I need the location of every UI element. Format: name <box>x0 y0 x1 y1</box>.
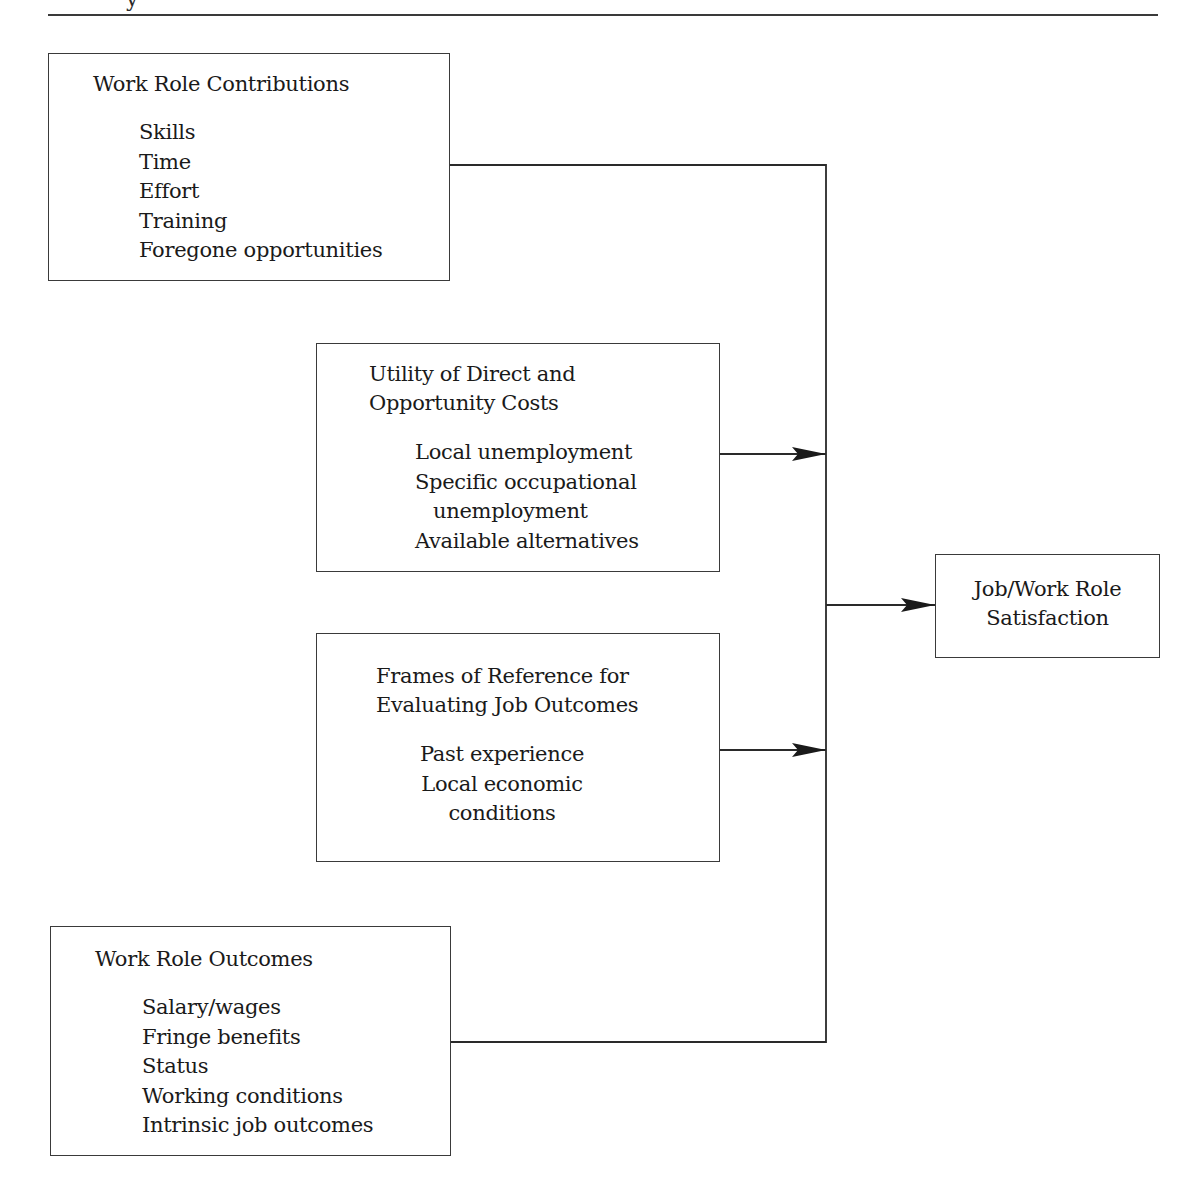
box-item-list: Skills Time Effort Training Foregone opp… <box>139 118 382 266</box>
list-item: Local economic <box>417 770 587 800</box>
box-title: Work Role Outcomes <box>95 945 313 974</box>
box-job-satisfaction: Job/Work Role Satisfaction <box>935 554 1160 658</box>
box-title-line: Evaluating Job Outcomes <box>376 691 638 720</box>
box-title-line: Utility of Direct and <box>369 360 575 389</box>
box-title: Work Role Contributions <box>93 70 349 99</box>
box-title: Utility of Direct and Opportunity Costs <box>369 360 575 418</box>
list-item: Available alternatives <box>415 527 639 557</box>
box-title-line: Frames of Reference for <box>376 662 638 691</box>
contributions-connector <box>449 165 826 1042</box>
list-item: Skills <box>139 118 382 148</box>
box-frames-of-reference: Frames of Reference for Evaluating Job O… <box>316 633 720 862</box>
list-item: Time <box>139 148 382 178</box>
box-item-list: Local unemployment Specific occupational… <box>415 438 639 556</box>
box-title-line: Job/Work Role <box>936 575 1159 604</box>
box-title-line: Opportunity Costs <box>369 389 575 418</box>
list-item: Salary/wages <box>142 993 373 1023</box>
list-item: Training <box>139 207 382 237</box>
list-item: Effort <box>139 177 382 207</box>
list-item: Specific occupational <box>415 468 639 498</box>
list-item: Past experience <box>417 740 587 770</box>
list-item: conditions <box>417 799 587 829</box>
box-title: Frames of Reference for Evaluating Job O… <box>376 662 638 720</box>
list-item: Fringe benefits <box>142 1023 373 1053</box>
page-header-rule <box>48 14 1158 16</box>
header-text-fragment: y <box>126 0 138 11</box>
list-item: Local unemployment <box>415 438 639 468</box>
box-work-role-contributions: Work Role Contributions Skills Time Effo… <box>48 53 450 281</box>
box-utility-costs: Utility of Direct and Opportunity Costs … <box>316 343 720 572</box>
box-item-list: Past experience Local economic condition… <box>417 740 587 829</box>
box-title: Job/Work Role Satisfaction <box>936 575 1159 633</box>
list-item: Working conditions <box>142 1082 373 1112</box>
list-item: Intrinsic job outcomes <box>142 1111 373 1141</box>
list-item: unemployment <box>415 497 639 527</box>
box-item-list: Salary/wages Fringe benefits Status Work… <box>142 993 373 1141</box>
box-title-line: Satisfaction <box>936 604 1159 633</box>
list-item: Foregone opportunities <box>139 236 382 266</box>
box-work-role-outcomes: Work Role Outcomes Salary/wages Fringe b… <box>50 926 451 1156</box>
list-item: Status <box>142 1052 373 1082</box>
